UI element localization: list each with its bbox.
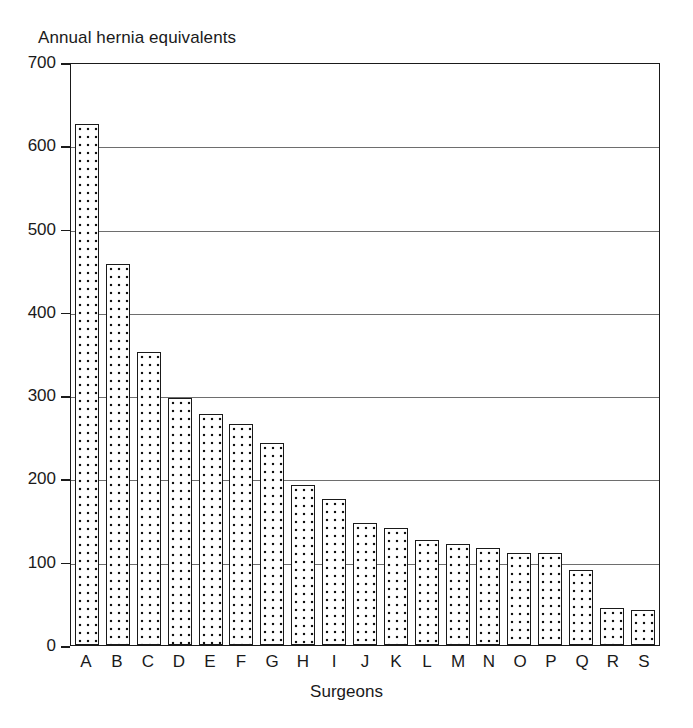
bar-R[interactable]	[600, 608, 624, 645]
bar-E[interactable]	[199, 414, 223, 645]
plot-area	[70, 63, 660, 646]
y-axis-label-0: 0	[47, 637, 56, 654]
bar-H[interactable]	[291, 485, 315, 645]
bar-F[interactable]	[229, 424, 253, 645]
x-axis-label-A: A	[74, 650, 98, 678]
y-axis: 0100200300400500600700	[0, 0, 70, 728]
bar-O[interactable]	[507, 553, 531, 645]
y-axis-label-300: 300	[28, 387, 56, 404]
x-axis-label-F: F	[229, 650, 253, 678]
bar-P[interactable]	[538, 553, 562, 645]
x-axis-tick-labels: ABCDEFGHIJKLMNOPQRS	[70, 650, 660, 678]
bar-J[interactable]	[353, 523, 377, 645]
x-axis-label-Q: Q	[570, 650, 594, 678]
x-axis-label-S: S	[632, 650, 656, 678]
bar-C[interactable]	[137, 352, 161, 645]
bar-S[interactable]	[631, 610, 655, 645]
y-axis-label-400: 400	[28, 304, 56, 321]
bar-D[interactable]	[168, 398, 192, 645]
bar-K[interactable]	[384, 528, 408, 645]
y-axis-label-100: 100	[28, 554, 56, 571]
y-axis-label-700: 700	[28, 54, 56, 71]
x-axis-label-G: G	[260, 650, 284, 678]
y-tick-200	[61, 479, 70, 481]
bar-N[interactable]	[476, 548, 500, 645]
bar-I[interactable]	[322, 499, 346, 645]
chart-page: Annual hernia equivalents 01002003004005…	[0, 0, 693, 728]
x-axis-label-I: I	[322, 650, 346, 678]
bar-G[interactable]	[260, 443, 284, 645]
y-axis-label-600: 600	[28, 137, 56, 154]
x-axis-label-P: P	[539, 650, 563, 678]
bar-series	[71, 64, 659, 645]
bar-Q[interactable]	[569, 570, 593, 645]
bar-A[interactable]	[75, 124, 99, 645]
bar-B[interactable]	[106, 264, 130, 645]
x-axis-label-N: N	[477, 650, 501, 678]
x-axis-label-R: R	[601, 650, 625, 678]
y-tick-100	[61, 563, 70, 565]
y-tick-600	[61, 146, 70, 148]
x-axis-label-D: D	[167, 650, 191, 678]
y-axis-label-200: 200	[28, 470, 56, 487]
x-axis-label-H: H	[291, 650, 315, 678]
x-axis-label-B: B	[105, 650, 129, 678]
y-tick-0	[61, 646, 70, 648]
y-tick-300	[61, 396, 70, 398]
y-tick-500	[61, 230, 70, 232]
x-axis-label-M: M	[446, 650, 470, 678]
x-axis-label-O: O	[508, 650, 532, 678]
y-tick-700	[61, 63, 70, 65]
x-axis-title: Surgeons	[0, 682, 693, 702]
y-axis-label-500: 500	[28, 221, 56, 238]
x-axis-label-E: E	[198, 650, 222, 678]
x-axis-label-L: L	[415, 650, 439, 678]
x-axis-label-K: K	[384, 650, 408, 678]
y-tick-400	[61, 313, 70, 315]
bar-L[interactable]	[415, 540, 439, 645]
x-axis-label-J: J	[353, 650, 377, 678]
x-axis-label-C: C	[136, 650, 160, 678]
bar-M[interactable]	[446, 544, 470, 645]
